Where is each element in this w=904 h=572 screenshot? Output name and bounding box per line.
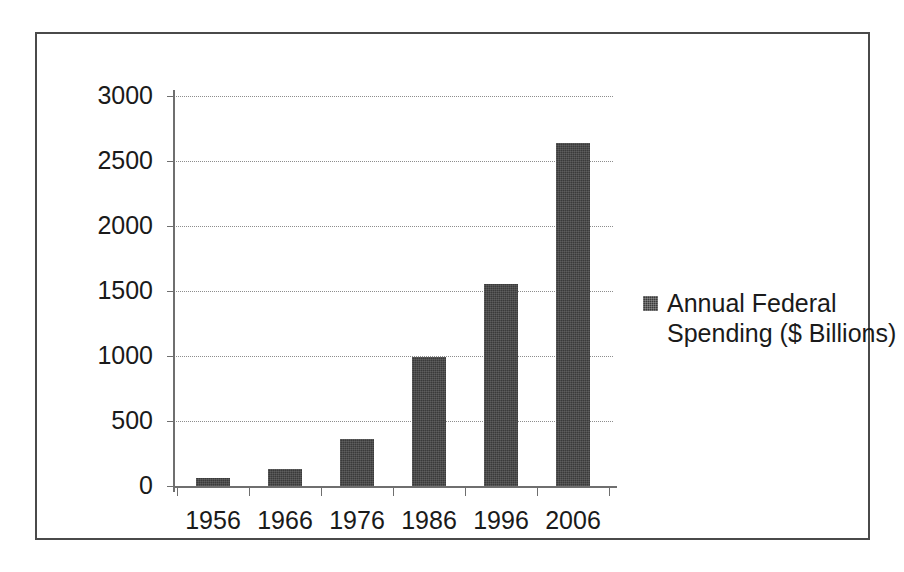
bar-2006 — [556, 143, 590, 486]
plot-area — [173, 96, 613, 486]
y-axis-tick-label: 3000 — [63, 83, 153, 108]
legend-swatch-icon — [643, 296, 658, 311]
x-axis-tick — [537, 486, 538, 496]
y-axis-tick-label: 1500 — [63, 278, 153, 303]
y-axis-tick-label: 2000 — [63, 213, 153, 238]
x-axis-tick-label: 1956 — [177, 508, 249, 533]
legend-label: Annual Federal Spending ($ Billions) — [667, 289, 904, 348]
x-axis-tick — [249, 486, 250, 496]
y-axis-tick-label: 2500 — [63, 148, 153, 173]
x-axis-line — [173, 486, 617, 488]
chart-border-frame: 300025002000150010005000 195619661976198… — [35, 32, 870, 540]
x-axis-tick — [465, 486, 466, 496]
x-axis-tick — [393, 486, 394, 496]
bar-1976 — [340, 439, 374, 486]
y-axis-tick-label: 500 — [63, 408, 153, 433]
y-axis-tick-label: 0 — [63, 473, 153, 498]
x-axis-tick-label: 1986 — [393, 508, 465, 533]
bar-1956 — [196, 478, 230, 486]
chart-legend: Annual Federal Spending ($ Billions) — [643, 289, 904, 348]
x-axis-tick-label: 1996 — [465, 508, 537, 533]
x-axis-tick — [177, 486, 178, 496]
y-axis-tick-label: 1000 — [63, 343, 153, 368]
bar-chart-figure: 300025002000150010005000 195619661976198… — [0, 0, 904, 572]
x-axis-tick — [609, 486, 610, 496]
x-axis-tick-label: 1966 — [249, 508, 321, 533]
bar-1996 — [484, 284, 518, 486]
x-axis-tick-label: 2006 — [537, 508, 609, 533]
x-axis-tick — [321, 486, 322, 496]
bar-1966 — [268, 469, 302, 486]
x-axis-tick-label: 1976 — [321, 508, 393, 533]
bar-1986 — [412, 357, 446, 486]
